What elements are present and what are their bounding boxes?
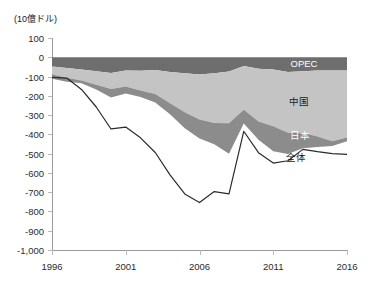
x-axis-tick-label: 2016 <box>336 261 357 272</box>
y-axis-unit-label: (10億ドル) <box>14 12 57 25</box>
y-axis-tick-label: -400 <box>0 129 44 140</box>
series-label-china: 中国 <box>289 94 309 108</box>
y-axis-tick-label: -200 <box>0 90 44 101</box>
series-label-total: 全体 <box>286 150 306 164</box>
y-axis-tick-label: -800 <box>0 206 44 217</box>
y-axis-tick-label: -600 <box>0 167 44 178</box>
x-axis-tick-mark <box>200 250 201 255</box>
y-axis-tick-label: -500 <box>0 148 44 159</box>
x-axis-tick-label: 1996 <box>41 261 62 272</box>
x-axis-tick-mark <box>52 250 53 255</box>
y-axis-tick-label: -1,000 <box>0 245 44 256</box>
y-axis-tick-label: -100 <box>0 71 44 82</box>
x-axis-tick-mark <box>347 250 348 255</box>
y-axis-tick-label: -300 <box>0 110 44 121</box>
x-axis-tick-label: 2011 <box>263 261 283 272</box>
y-axis-tick-label: 100 <box>0 33 44 44</box>
x-axis-tick-mark <box>126 250 127 255</box>
plot-svg <box>52 38 347 250</box>
x-axis-tick-label: 2001 <box>115 261 136 272</box>
x-axis-tick-mark <box>273 250 274 255</box>
x-axis-tick-label: 2006 <box>189 261 210 272</box>
y-axis-tick-label: -700 <box>0 187 44 198</box>
plot-area <box>52 38 347 250</box>
y-axis-tick-label: 0 <box>0 52 44 63</box>
series-label-opec: OPEC <box>291 58 318 69</box>
trade-balance-chart: (10億ドル) 1000-100-200-300-400-500-600-700… <box>0 0 381 281</box>
y-axis-tick-label: -900 <box>0 225 44 236</box>
series-label-japan: 日本 <box>290 128 310 142</box>
